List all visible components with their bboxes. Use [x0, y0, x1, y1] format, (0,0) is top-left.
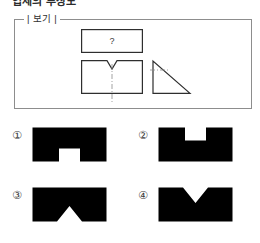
option-1[interactable]: ①	[4, 118, 134, 180]
page-title-strip: 입체의 투상도	[0, 0, 260, 8]
option-4-outline	[159, 188, 233, 222]
question-mark-label: ?	[109, 36, 114, 46]
figure-front-view-v-notch	[81, 60, 143, 104]
option-4[interactable]: ④	[130, 178, 260, 240]
option-2-figure	[158, 121, 240, 175]
example-box-legend: | 보기 |	[24, 13, 60, 25]
option-2-number: ②	[138, 130, 148, 141]
page-title: 입체의 투상도	[12, 0, 76, 8]
option-3-figure	[32, 181, 114, 235]
option-3[interactable]: ③	[4, 178, 134, 240]
option-1-figure	[32, 121, 114, 175]
figure-side-view-triangle	[152, 60, 194, 100]
option-2[interactable]: ②	[130, 118, 260, 180]
answer-options: ① ② ③ ④	[0, 118, 260, 243]
option-4-number: ④	[138, 190, 148, 201]
option-1-outline	[33, 128, 107, 162]
option-2-outline	[159, 128, 233, 162]
side-view-triangle-outline	[153, 61, 190, 93]
option-3-outline	[33, 188, 107, 222]
option-3-number: ③	[12, 190, 22, 201]
option-4-figure	[158, 181, 240, 235]
option-1-number: ①	[12, 130, 22, 141]
figure-top-view-unknown: ?	[81, 29, 143, 53]
